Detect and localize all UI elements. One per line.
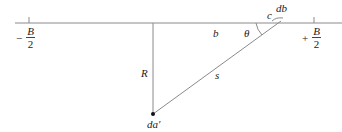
corner-arc bbox=[272, 18, 283, 21]
point-dot bbox=[151, 112, 155, 116]
diagram-lines bbox=[0, 0, 342, 132]
plus-sign: + bbox=[302, 32, 308, 44]
label-db: db bbox=[276, 3, 287, 14]
fraction: B 2 bbox=[26, 26, 35, 50]
diagram: − B 2 + B 2 b θ c db R s da′ bbox=[0, 0, 342, 132]
label-R: R bbox=[141, 68, 148, 79]
fraction-numerator: B bbox=[26, 26, 35, 38]
label-b: b bbox=[213, 28, 219, 39]
label-theta: θ bbox=[244, 28, 249, 39]
fraction-denominator: 2 bbox=[28, 38, 34, 50]
fraction: B 2 bbox=[312, 26, 321, 50]
label-c: c bbox=[267, 10, 272, 21]
fraction-denominator: 2 bbox=[314, 38, 320, 50]
fraction-numerator: B bbox=[312, 26, 321, 38]
right-bound-label: + B 2 bbox=[302, 26, 321, 50]
minus-sign: − bbox=[16, 32, 22, 44]
angle-arc bbox=[256, 23, 262, 35]
left-bound-label: − B 2 bbox=[16, 26, 35, 50]
label-s: s bbox=[215, 70, 219, 81]
label-da-prime: da′ bbox=[147, 119, 160, 130]
